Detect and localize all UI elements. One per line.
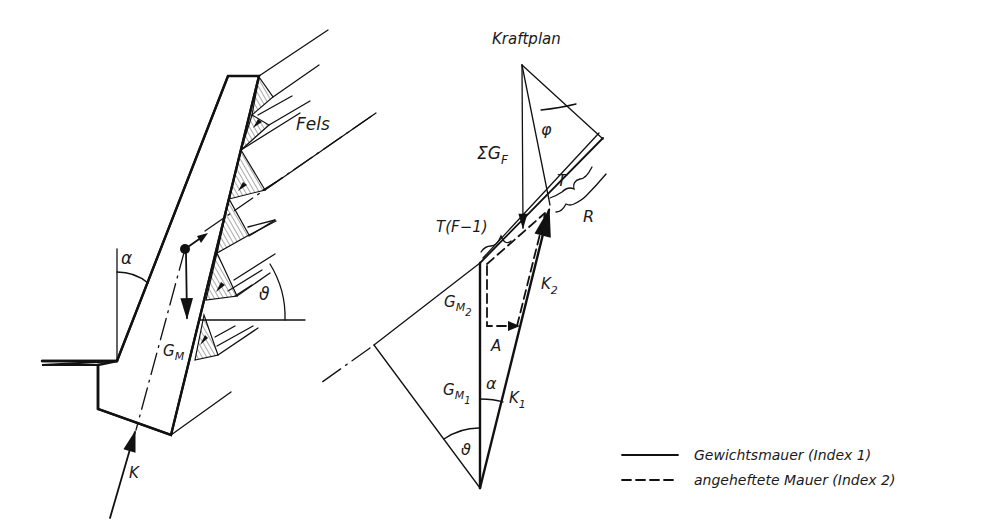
legend: Gewichtsmauer (Index 1) angeheftete Maue… [622, 447, 895, 488]
gm1-label: GM1 [443, 381, 471, 406]
brace-t-f1 [481, 236, 511, 252]
rock-label: Fels [296, 114, 330, 134]
theta-label: ϑ [259, 284, 270, 304]
alpha-arc-poly [480, 399, 503, 402]
alpha-arc [117, 272, 148, 283]
alpha-label: α [121, 248, 132, 268]
theta-arc-poly [444, 428, 479, 439]
t-label: T [557, 171, 568, 190]
theta-arc [270, 264, 285, 320]
dashed-polygon-a [487, 266, 515, 326]
k1-label: K1 [509, 389, 526, 411]
legend-label-solid: Gewichtsmauer (Index 1) [694, 447, 871, 463]
rock-joint-lines [171, 30, 376, 435]
hatched-wedges [195, 77, 273, 360]
kraftplan-title: Kraftplan [492, 30, 561, 48]
rock-weight-label: ΣGF [477, 143, 509, 167]
joint-line-dashdot [318, 348, 370, 385]
theta-poly-label: ϑ [461, 440, 471, 459]
anchor-label: A [490, 337, 501, 355]
gm-arrow [186, 253, 187, 318]
legend-label-dashed: angeheftete Mauer (Index 2) [694, 472, 895, 488]
diagram-canvas: Fels α ϑ GM K Kraftplan [0, 0, 989, 530]
k2-label: K2 [541, 275, 558, 297]
rock-weight-arrow [522, 65, 523, 228]
dashed-k2-line [517, 214, 545, 326]
wall-section: Fels α ϑ GM K [42, 30, 376, 518]
gm-label: GM [163, 342, 185, 363]
t-f1-label: T(F−1) [436, 218, 488, 236]
normal-to-joint-line [374, 345, 480, 488]
r-label: R [583, 207, 594, 226]
phi-label: φ [541, 120, 552, 139]
wall-outline [42, 76, 259, 435]
k-label: K [129, 464, 140, 482]
gm2-label: GM2 [444, 293, 472, 318]
alpha-poly-label: α [486, 374, 497, 393]
force-polygon: Kraftplan ΣGF φ T R T(F−1) K [318, 30, 606, 488]
